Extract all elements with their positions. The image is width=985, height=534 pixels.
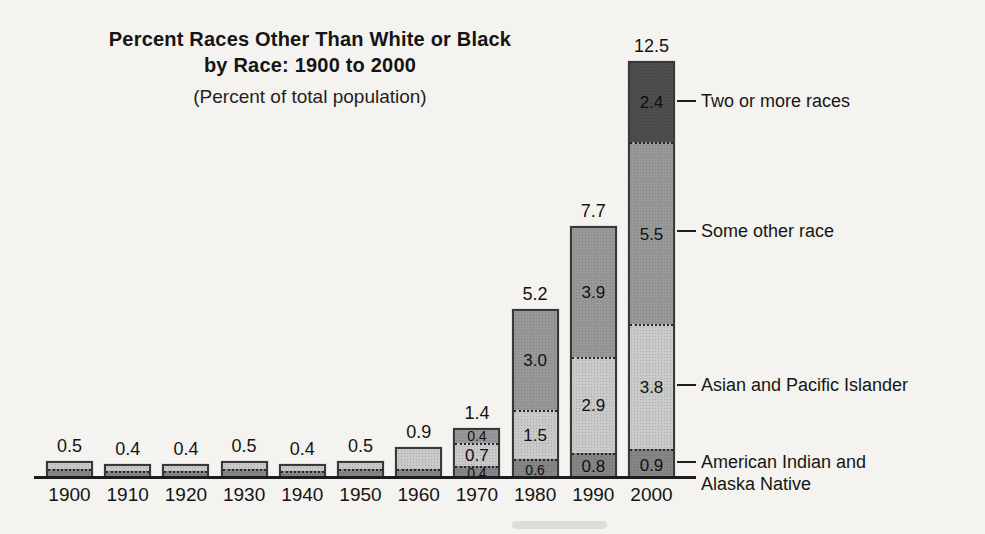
chart-title-line-1: Percent Races Other Than White or Black (40, 26, 580, 52)
segment-value-asian_pacific_islander-2000: 3.8 (640, 379, 664, 396)
bar-1940 (279, 464, 326, 477)
callout-some_other_race: Some other race (677, 220, 834, 242)
callout-label-some_other_race: Some other race (701, 220, 834, 242)
callout-tick-american_indian_alaska_native (677, 461, 696, 463)
bar-2000: 2.45.53.80.9 (628, 61, 675, 477)
total-label-1980: 5.2 (500, 284, 571, 305)
total-label-1970: 1.4 (441, 403, 512, 424)
segment-value-two_or_more_races-2000: 2.4 (640, 94, 664, 111)
segment-asian_pacific_islander-1950 (339, 463, 382, 470)
callout-label-american_indian_alaska_native: American Indian and Alaska Native (701, 451, 891, 495)
callout-label-asian_pacific_islander: Asian and Pacific Islander (701, 374, 908, 396)
segment-two_or_more_races-2000: 2.4 (630, 63, 673, 142)
segment-value-some_other_race-2000: 5.5 (640, 226, 664, 243)
bar-1960 (395, 447, 442, 477)
segment-value-some_other_race-1980: 3.0 (523, 352, 547, 369)
total-label-1990: 7.7 (558, 201, 629, 222)
segment-some_other_race-1970: 0.4 (455, 430, 498, 443)
segment-asian_pacific_islander-1970: 0.7 (455, 443, 498, 466)
callout-asian_pacific_islander: Asian and Pacific Islander (677, 374, 908, 396)
segment-some_other_race-1990: 3.9 (572, 228, 615, 357)
bar-1950 (337, 461, 384, 478)
segment-some_other_race-1980: 3.0 (514, 311, 557, 410)
bar-1980: 3.01.50.6 (512, 309, 559, 477)
chart-title-block: Percent Races Other Than White or Black … (40, 26, 580, 109)
callout-tick-two_or_more_races (677, 100, 696, 102)
bar-1920 (162, 464, 209, 477)
segment-asian_pacific_islander-1980: 1.5 (514, 410, 557, 460)
segment-american_indian_alaska_native-2000: 0.9 (630, 449, 673, 479)
total-label-1960: 0.9 (383, 422, 454, 443)
segment-american_indian_alaska_native-1990: 0.8 (572, 453, 615, 479)
bar-1970: 0.40.70.4 (453, 428, 500, 478)
segment-value-some_other_race-1990: 3.9 (581, 284, 605, 301)
callout-american_indian_alaska_native: American Indian and Alaska Native (677, 451, 891, 495)
callout-tick-some_other_race (677, 230, 696, 232)
segment-value-asian_pacific_islander-1970: 0.7 (465, 447, 489, 464)
total-label-2000: 12.5 (616, 36, 687, 57)
segment-asian_pacific_islander-1900 (48, 463, 91, 470)
figure-canvas: Percent Races Other Than White or Black … (0, 0, 985, 534)
callout-label-two_or_more_races: Two or more races (701, 90, 850, 112)
callout-tick-asian_pacific_islander (677, 384, 696, 386)
segment-some_other_race-2000: 5.5 (630, 142, 673, 324)
callout-two_or_more_races: Two or more races (677, 90, 850, 112)
bar-1930 (221, 461, 268, 478)
segment-value-american_indian_alaska_native-1990: 0.8 (581, 458, 605, 475)
segment-asian_pacific_islander-2000: 3.8 (630, 324, 673, 449)
segment-value-american_indian_alaska_native-1980: 0.6 (525, 463, 544, 477)
bar-1900 (46, 461, 93, 478)
segment-value-asian_pacific_islander-1990: 2.9 (581, 397, 605, 414)
chart-subtitle: (Percent of total population) (40, 85, 580, 109)
scan-artifact (512, 521, 607, 529)
segment-asian_pacific_islander-1960 (397, 449, 440, 469)
segment-asian_pacific_islander-1990: 2.9 (572, 357, 615, 453)
chart-title-line-2: by Race: 1900 to 2000 (40, 52, 580, 78)
bar-1910 (104, 464, 151, 477)
bar-1990: 3.92.90.8 (570, 226, 617, 477)
segment-asian_pacific_islander-1930 (223, 463, 266, 470)
segment-value-some_other_race-1970: 0.4 (467, 429, 486, 443)
x-axis-line (34, 476, 696, 479)
segment-value-american_indian_alaska_native-2000: 0.9 (640, 457, 664, 474)
segment-value-asian_pacific_islander-1980: 1.5 (523, 427, 547, 444)
